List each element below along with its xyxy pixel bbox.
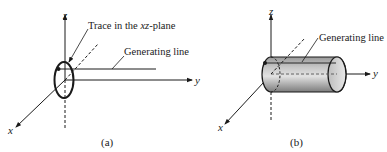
cylinder-end-cap: [328, 57, 346, 92]
x-axis: [16, 80, 65, 127]
z-axis-label: z: [62, 9, 68, 21]
y-axis-label: y: [372, 67, 378, 79]
generating-point: [263, 61, 267, 65]
generating-point: [57, 67, 61, 71]
z-axis-label: z: [268, 5, 274, 17]
y-axis-label: y: [194, 74, 200, 86]
generating-line-label: Generating line: [124, 46, 189, 57]
x-axis-negative-dashed: [65, 44, 98, 80]
panel-a: z y x Trace in the xz-plane Generating l…: [7, 9, 200, 149]
generating-line-leader: [112, 56, 124, 69]
trace-leader-arrow: [69, 29, 88, 62]
x-axis-label: x: [7, 124, 13, 136]
trace-label: Trace in the xz-plane: [88, 20, 176, 31]
caption-a: (a): [101, 136, 114, 149]
generating-line-label: Generating line: [319, 32, 384, 43]
caption-b: (b): [290, 136, 303, 149]
x-axis: [225, 82, 264, 124]
x-axis-label: x: [217, 121, 223, 133]
panel-b: z y x Generating line (b): [217, 5, 384, 149]
diagram-canvas: z y x Trace in the xz-plane Generating l…: [0, 0, 387, 152]
